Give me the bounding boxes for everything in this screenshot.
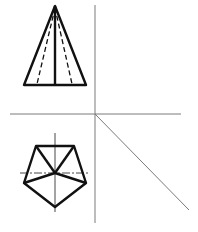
top-view-edge-4 [24, 173, 55, 183]
projection-diagram [0, 0, 198, 232]
front-view [24, 6, 86, 85]
top-view-edge-2 [55, 146, 74, 173]
top-view-edge-3 [55, 173, 86, 183]
top-view [20, 133, 88, 212]
miter-line [95, 114, 189, 210]
top-view-edge-1 [36, 146, 55, 173]
